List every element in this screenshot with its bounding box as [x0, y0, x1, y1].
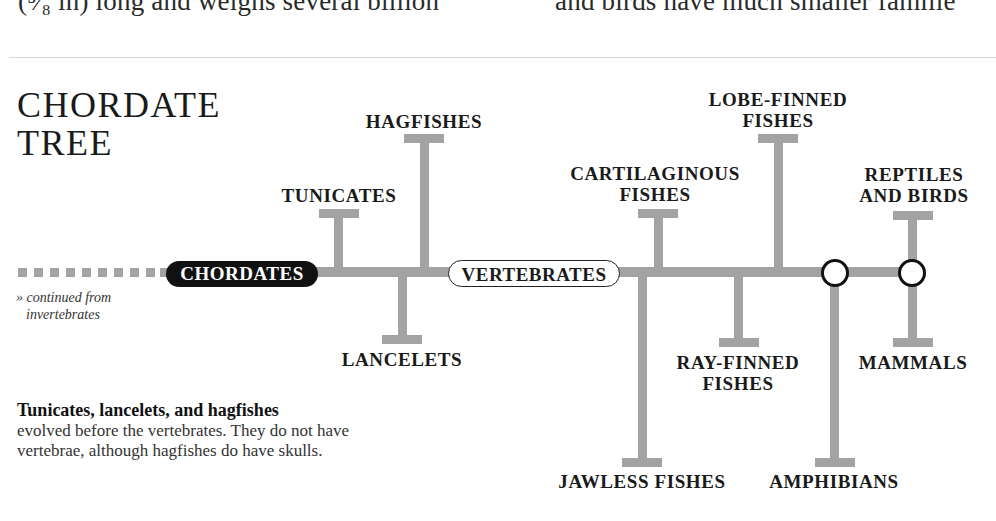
hagfishes-branch	[420, 138, 429, 270]
amniote-node-circle	[898, 259, 926, 287]
ray-finned-fishes-branch	[734, 274, 743, 342]
double-chevron-icon: »	[16, 290, 23, 305]
jawless-fishes-cap	[622, 458, 662, 467]
label-amphibians: AMPHIBIANS	[752, 471, 916, 492]
reptiles-and-birds-cap	[893, 211, 933, 220]
mammals-branch	[908, 285, 917, 343]
caption-body: evolved before the vertebrates. They do …	[17, 421, 349, 460]
title-line-1: CHORDATE	[17, 86, 221, 124]
cartilaginous-fishes-cap	[638, 209, 678, 218]
hagfishes-cap	[404, 134, 444, 143]
label-hagfishes: HAGFISHES	[352, 111, 496, 132]
vertebrates-node-pill: VERTEBRATES	[448, 260, 620, 287]
label-lancelets: LANCELETS	[330, 349, 474, 370]
label-mammals: MAMMALS	[846, 352, 980, 373]
section-divider	[9, 57, 996, 58]
jawless-fishes-branch	[638, 274, 647, 464]
label-jawless-fishes: JAWLESS FISHES	[545, 471, 739, 492]
cartilaginous-fishes-branch	[654, 212, 663, 270]
tunicates-branch	[334, 212, 343, 270]
title-line-2: TREE	[17, 124, 221, 162]
ray-finned-fishes-cap	[719, 338, 759, 347]
label-ray-finned-fishes: RAY-FINNED FISHES	[660, 352, 816, 394]
lobe-finned-fishes-cap	[758, 134, 798, 143]
caption-text: Tunicates, lancelets, and hagfishes evol…	[17, 400, 397, 461]
tunicates-cap	[319, 209, 359, 218]
mammals-cap	[893, 338, 933, 347]
label-cartilaginous-fishes: CARTILAGINOUS FISHES	[555, 163, 755, 205]
caption-bold-lead: Tunicates, lancelets, and hagfishes	[17, 400, 279, 420]
left-column-text-fragment: (⁵⁄₈ in) long and weighs several billion	[18, 0, 439, 17]
lancelets-branch	[398, 274, 407, 339]
amphibians-branch	[830, 285, 839, 463]
diagram-title: CHORDATE TREE	[17, 86, 221, 162]
label-reptiles-and-birds: REPTILES AND BIRDS	[842, 164, 986, 206]
label-tunicates: TUNICATES	[272, 185, 406, 206]
lancelets-cap	[382, 335, 422, 344]
chordates-root-pill: CHORDATES	[166, 261, 318, 287]
lobe-finned-fishes-branch	[774, 138, 783, 270]
continued-from-note: » continued from invertebrates	[16, 289, 111, 323]
right-column-text-fragment: and birds have much smaller familie	[555, 0, 956, 17]
label-lobe-finned-fishes: LOBE-FINNED FISHES	[690, 89, 866, 131]
tetrapod-node-circle	[821, 259, 849, 287]
amphibians-cap	[815, 458, 855, 467]
